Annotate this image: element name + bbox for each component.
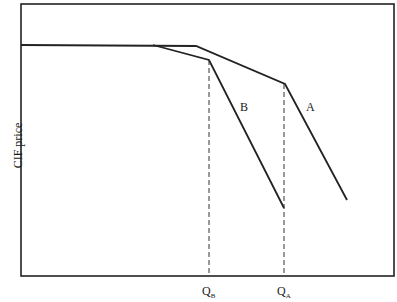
curve-a: [21, 45, 347, 200]
qa-sub: A: [286, 292, 291, 300]
curve-b-label: B: [240, 100, 248, 115]
qa-tick-label: QA: [277, 284, 291, 300]
curve-b: [153, 45, 284, 208]
diagram-canvas: [0, 0, 397, 302]
qb-main: Q: [202, 284, 211, 298]
curve-a-label: A: [306, 100, 315, 115]
qa-main: Q: [277, 284, 286, 298]
qb-sub: B: [211, 292, 216, 300]
y-axis-label: CIF price: [11, 116, 26, 176]
qb-tick-label: QB: [202, 284, 215, 300]
